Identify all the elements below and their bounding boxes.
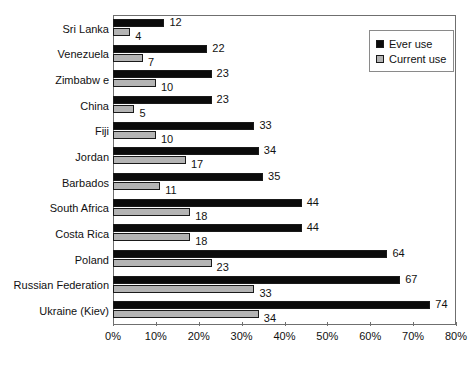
bar-group: 3511 xyxy=(113,170,456,196)
bar-chart: Sri LankaVenezuelaZimbabw eChinaFijiJord… xyxy=(0,0,474,365)
legend-swatch-icon xyxy=(376,55,384,63)
category-label: South Africa xyxy=(0,196,109,222)
bar-ever-use xyxy=(113,96,212,104)
x-axis-tick-mark xyxy=(327,322,328,326)
bar-value-label-current-use: 7 xyxy=(148,57,154,68)
bar-value-label-ever-use: 44 xyxy=(307,197,319,208)
bar-value-label-current-use: 5 xyxy=(139,108,145,119)
bar-ever-use xyxy=(113,224,302,232)
bar-value-label-ever-use: 22 xyxy=(212,43,224,54)
bar-value-label-current-use: 11 xyxy=(165,185,176,196)
bar-group: 235 xyxy=(113,93,456,119)
category-label: Ukraine (Kiev) xyxy=(0,298,109,324)
bar-group: 4418 xyxy=(113,196,456,222)
bar-value-label-current-use: 33 xyxy=(259,288,271,299)
bar-ever-use xyxy=(113,70,212,78)
x-axis-tick-label: 0% xyxy=(105,330,121,342)
bar-value-label-ever-use: 12 xyxy=(169,17,181,28)
bar-ever-use xyxy=(113,173,263,181)
bar-value-label-current-use: 18 xyxy=(195,211,207,222)
x-axis-tick-label: 10% xyxy=(145,330,167,342)
x-axis-tick-label: 20% xyxy=(188,330,210,342)
bar-current-use xyxy=(113,182,160,190)
x-axis-tick-label: 40% xyxy=(273,330,295,342)
category-label: China xyxy=(0,93,109,119)
x-axis-tick-mark xyxy=(456,322,457,326)
bar-ever-use xyxy=(113,19,164,27)
bar-value-label-current-use: 18 xyxy=(195,236,207,247)
bar-group: 6733 xyxy=(113,273,456,299)
bar-group: 6423 xyxy=(113,247,456,273)
category-label: Fiji xyxy=(0,119,109,145)
x-axis-tick-mark xyxy=(199,322,200,326)
legend-item[interactable]: Current use xyxy=(376,51,446,66)
x-axis-tick-mark xyxy=(285,322,286,326)
bar-ever-use xyxy=(113,122,254,130)
x-axis-tick-label: 60% xyxy=(359,330,381,342)
legend-swatch-icon xyxy=(376,40,384,48)
x-axis-tick-label: 30% xyxy=(231,330,253,342)
x-axis-tick-mark xyxy=(413,322,414,326)
bar-group: 4418 xyxy=(113,221,456,247)
bar-value-label-current-use: 10 xyxy=(161,134,173,145)
category-label: Jordan xyxy=(0,144,109,170)
bar-current-use xyxy=(113,310,259,318)
category-label: Russian Federation xyxy=(0,273,109,299)
bar-group: 3310 xyxy=(113,119,456,145)
category-label: Barbados xyxy=(0,170,109,196)
x-axis-tick-labels: 0%10%20%30%40%50%60%70%80% xyxy=(113,326,456,346)
bar-value-label-current-use: 23 xyxy=(217,262,229,273)
bar-current-use xyxy=(113,79,156,87)
legend-item[interactable]: Ever use xyxy=(376,36,446,51)
bar-current-use xyxy=(113,285,254,293)
category-label: Venezuela xyxy=(0,42,109,68)
bar-value-label-ever-use: 34 xyxy=(264,145,276,156)
bar-value-label-ever-use: 33 xyxy=(259,120,271,131)
bar-current-use xyxy=(113,131,156,139)
bar-ever-use xyxy=(113,147,259,155)
bar-ever-use xyxy=(113,45,207,53)
bar-value-label-ever-use: 74 xyxy=(435,299,447,310)
bar-current-use xyxy=(113,105,134,113)
bar-value-label-current-use: 34 xyxy=(264,313,276,324)
bar-current-use xyxy=(113,208,190,216)
category-label: Sri Lanka xyxy=(0,16,109,42)
bar-value-label-current-use: 10 xyxy=(161,82,173,93)
x-axis-tick-label: 80% xyxy=(445,330,467,342)
x-axis-tick-mark xyxy=(370,322,371,326)
bar-current-use xyxy=(113,233,190,241)
bar-value-label-ever-use: 35 xyxy=(268,171,280,182)
x-axis-tick-label: 50% xyxy=(316,330,338,342)
bar-group: 3417 xyxy=(113,144,456,170)
bar-value-label-ever-use: 23 xyxy=(217,94,229,105)
x-axis-tick-mark xyxy=(113,322,114,326)
bar-value-label-current-use: 17 xyxy=(191,159,203,170)
bar-value-label-ever-use: 67 xyxy=(405,274,417,285)
bar-value-label-ever-use: 64 xyxy=(392,248,404,259)
category-axis-labels: Sri LankaVenezuelaZimbabw eChinaFijiJord… xyxy=(0,16,109,324)
category-label: Costa Rica xyxy=(0,221,109,247)
bar-current-use xyxy=(113,259,212,267)
category-label: Zimbabw e xyxy=(0,67,109,93)
category-label: Poland xyxy=(0,247,109,273)
bar-ever-use xyxy=(113,199,302,207)
bar-value-label-current-use: 4 xyxy=(135,31,141,42)
x-axis-tick-mark xyxy=(156,322,157,326)
bar-ever-use xyxy=(113,276,400,284)
bar-ever-use xyxy=(113,301,430,309)
bar-value-label-ever-use: 23 xyxy=(217,68,229,79)
bar-current-use xyxy=(113,54,143,62)
bar-current-use xyxy=(113,28,130,36)
x-axis-tick-label: 70% xyxy=(402,330,424,342)
x-axis-tick-mark xyxy=(242,322,243,326)
legend-item-label: Ever use xyxy=(389,38,432,50)
legend-item-label: Current use xyxy=(389,53,446,65)
bar-group: 7434 xyxy=(113,298,456,324)
bar-current-use xyxy=(113,156,186,164)
bar-value-label-ever-use: 44 xyxy=(307,222,319,233)
chart-legend: Ever useCurrent use xyxy=(369,30,454,72)
bar-ever-use xyxy=(113,250,387,258)
